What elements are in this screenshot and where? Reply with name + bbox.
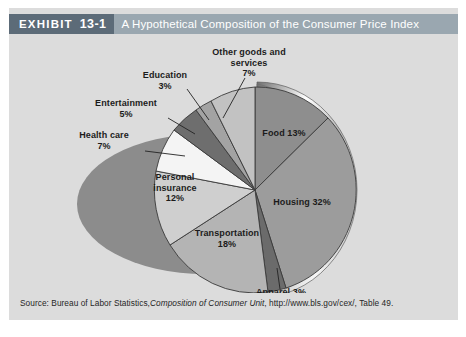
pie-label-personal-insurance-line2: insurance <box>138 183 212 194</box>
pie-chart-area: Other goods and services 7% Education 3%… <box>9 34 458 293</box>
pie-label-personal-insurance: Personal insurance 12% <box>138 172 212 204</box>
exhibit-header-bar: EXHIBIT 13-1 A Hypothetical Composition … <box>9 14 458 34</box>
source-title-italic: Composition of Consumer Unit <box>150 298 264 308</box>
pie-label-entertainment: Entertainment 5% <box>86 98 166 119</box>
exhibit-number-block: EXHIBIT 13-1 <box>9 14 114 34</box>
pie-label-other-goods-line1: Other goods and <box>207 47 291 58</box>
pie-label-other-goods-value: 7% <box>207 68 291 79</box>
pie-label-health-care-line1: Health care <box>67 130 141 141</box>
pie-label-entertainment-line1: Entertainment <box>86 98 166 109</box>
pie-label-food: Food 13% <box>252 128 316 139</box>
pie-label-entertainment-value: 5% <box>86 109 166 120</box>
source-suffix: , http://www.bls.gov/cex/, Table 49. <box>264 298 393 308</box>
pie-label-transportation: Transportation 18% <box>181 228 273 249</box>
pie-label-transportation-value: 18% <box>181 239 273 250</box>
source-prefix: Source: Bureau of Labor Statistics, <box>20 298 150 308</box>
pie-label-other-goods-line2: services <box>207 58 291 69</box>
pie-label-housing: Housing 32% <box>263 197 341 208</box>
source-note: Source: Bureau of Labor Statistics, Comp… <box>9 293 458 320</box>
pie-label-education-line1: Education <box>136 70 194 81</box>
pie-label-other-goods: Other goods and services 7% <box>207 47 291 79</box>
pie-label-health-care-value: 7% <box>67 141 141 152</box>
pie-label-education-value: 3% <box>136 81 194 92</box>
exhibit-figure: EXHIBIT 13-1 A Hypothetical Composition … <box>0 0 466 337</box>
pie-label-health-care: Health care 7% <box>67 130 141 151</box>
exhibit-label: EXHIBIT <box>19 18 73 30</box>
exhibit-number: 13-1 <box>80 17 107 31</box>
exhibit-title: A Hypothetical Composition of the Consum… <box>114 18 419 30</box>
pie-label-education: Education 3% <box>136 70 194 91</box>
pie-label-transportation-line1: Transportation <box>181 228 273 239</box>
pie-label-personal-insurance-line1: Personal <box>138 172 212 183</box>
pie-label-personal-insurance-value: 12% <box>138 193 212 204</box>
